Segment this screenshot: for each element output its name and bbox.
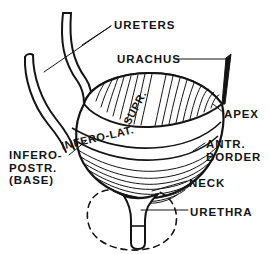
label-ureters: URETERS (114, 19, 175, 32)
label-urethra: URETHRA (190, 206, 253, 219)
label-infero-postr-base: INFERO- POSTR. (BASE) (9, 149, 63, 187)
label-apex: APEX (224, 108, 259, 121)
bladder-anatomy-figure: URETERS URACHUS APEX ANTR. BORDER NECK U… (0, 0, 269, 254)
label-antr-border: ANTR. BORDER (206, 138, 261, 163)
urachus-cord (222, 54, 231, 104)
label-neck: NECK (189, 177, 225, 190)
right-ureter-tube (62, 13, 92, 104)
bladder-neck (124, 194, 158, 249)
label-urachus: URACHUS (117, 53, 181, 66)
